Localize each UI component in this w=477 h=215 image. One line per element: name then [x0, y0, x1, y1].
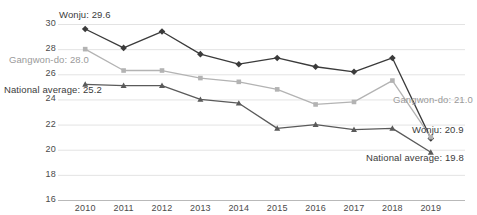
data-point-marker — [274, 55, 281, 62]
data-point-marker — [82, 26, 89, 33]
data-point-marker — [389, 55, 396, 62]
data-point-marker — [275, 87, 280, 92]
annotation-wonju-start: Wonju: 29.6 — [59, 9, 111, 20]
y-axis-tick-label: 22 — [32, 119, 56, 129]
data-point-marker — [237, 80, 242, 85]
data-point-marker — [352, 100, 357, 105]
annotation-gangwon-end: Gangwon-do: 21.0 — [393, 94, 473, 105]
y-axis-tick-label: 16 — [32, 194, 56, 204]
data-point-marker — [390, 78, 395, 83]
line-chart-plot: 1618202224262830 20102011201220132014201… — [0, 0, 477, 215]
x-axis-tick-label: 2010 — [65, 203, 105, 213]
data-point-marker — [160, 68, 165, 73]
x-axis-tick-label: 2014 — [219, 203, 259, 213]
x-axis-tick-label: 2015 — [257, 203, 297, 213]
data-point-marker — [121, 68, 126, 73]
x-axis-tick-label: 2019 — [411, 203, 451, 213]
data-point-marker — [159, 28, 166, 35]
series-line-national-average — [85, 84, 431, 152]
y-axis-tick-label: 20 — [32, 144, 56, 154]
chart-series-layer — [0, 0, 477, 215]
y-axis-tick-label: 28 — [32, 43, 56, 53]
x-axis-tick-label: 2013 — [180, 203, 220, 213]
data-point-marker — [120, 45, 127, 52]
x-axis-tick-label: 2016 — [296, 203, 336, 213]
annotation-wonju-end: Wonju: 20.9 — [412, 124, 464, 135]
annotation-gangwon-start: Gangwon-do: 28.0 — [9, 54, 89, 65]
data-point-marker — [83, 47, 88, 52]
data-point-marker — [313, 102, 318, 107]
data-point-marker — [351, 68, 358, 75]
chart-container: 1618202224262830 20102011201220132014201… — [0, 0, 477, 215]
data-point-marker — [197, 51, 204, 58]
data-point-marker — [236, 61, 243, 68]
data-point-marker — [312, 63, 319, 70]
y-axis-tick-label: 26 — [32, 68, 56, 78]
x-axis-tick-label: 2018 — [372, 203, 412, 213]
x-axis-tick-label: 2012 — [142, 203, 182, 213]
data-point-marker — [429, 135, 434, 140]
x-axis-tick-label: 2011 — [104, 203, 144, 213]
y-axis-tick-label: 18 — [32, 169, 56, 179]
annotation-national-end: National average: 19.8 — [366, 152, 464, 163]
y-axis-tick-label: 30 — [32, 18, 56, 28]
series-line-wonju — [85, 29, 431, 138]
annotation-national-start: National average: 25.2 — [4, 84, 102, 95]
x-axis-tick-label: 2017 — [334, 203, 374, 213]
data-point-marker — [198, 76, 203, 81]
